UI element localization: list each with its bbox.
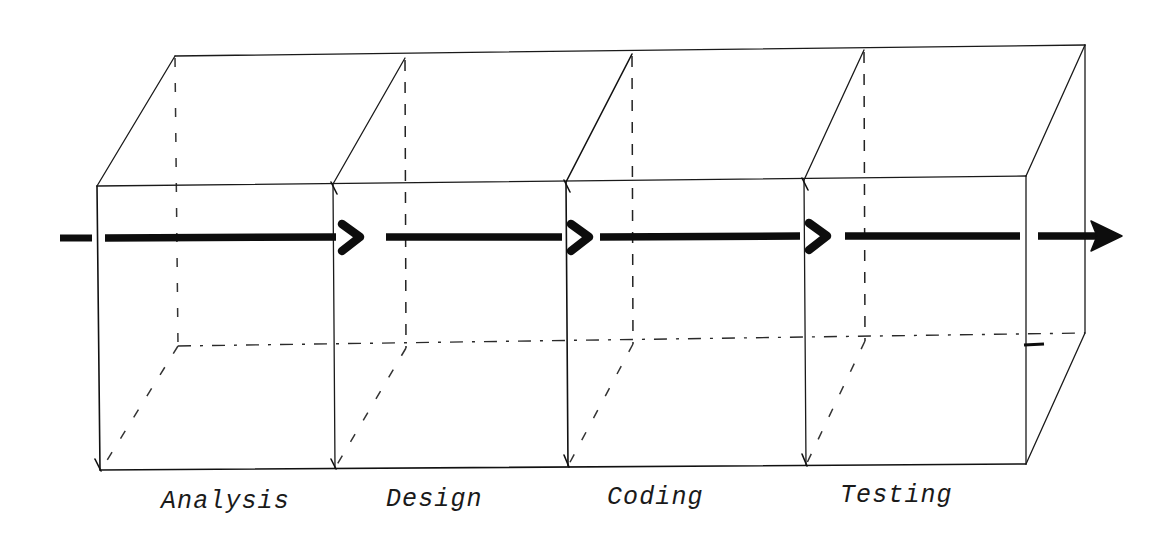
flow-segment-coding [600, 236, 800, 237]
phase-label-testing: Testing [840, 481, 953, 510]
phase-label-coding: Coding [607, 483, 704, 512]
flow-segment-analysis [105, 237, 336, 238]
process-phases-diagram: Analysis Design Coding Testing [0, 0, 1173, 547]
back-bottom-flow-tick [1024, 344, 1044, 345]
phase-label-analysis: Analysis [159, 487, 290, 516]
diagram-canvas: Analysis Design Coding Testing [0, 0, 1173, 547]
phase-label-design: Design [386, 485, 483, 514]
